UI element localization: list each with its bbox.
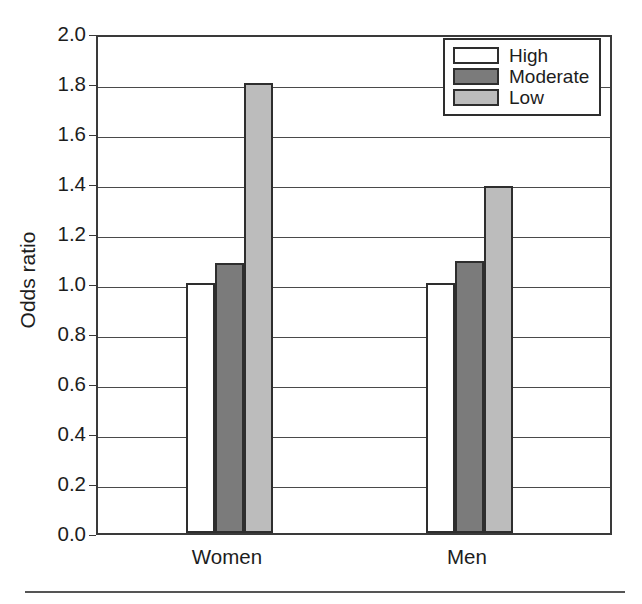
y-tick-mark — [89, 185, 96, 186]
y-tick-mark — [89, 385, 96, 386]
bar-men-moderate — [455, 261, 484, 534]
legend-swatch-moderate — [453, 68, 499, 85]
gridline — [98, 337, 610, 338]
y-tick-label: 1.4 — [58, 174, 87, 195]
legend-swatch-high — [453, 47, 499, 64]
y-tick-label: 1.6 — [58, 124, 87, 145]
y-tick-mark — [89, 135, 96, 136]
y-tick-mark — [89, 485, 96, 486]
gridline — [98, 387, 610, 388]
gridline — [98, 437, 610, 438]
legend-label-high: High — [509, 46, 548, 65]
gridline — [98, 187, 610, 188]
y-tick-mark — [89, 235, 96, 236]
y-tick-mark — [89, 285, 96, 286]
y-tick-mark — [89, 35, 96, 36]
bar-men-low — [484, 186, 513, 534]
bar-women-high — [186, 283, 215, 533]
y-tick-label: 1.2 — [58, 224, 87, 245]
legend-item-moderate: Moderate — [453, 67, 591, 86]
bar-women-low — [244, 83, 273, 533]
legend: High Moderate Low — [443, 38, 601, 116]
y-tick-label: 0.4 — [58, 424, 87, 445]
legend-label-low: Low — [509, 88, 544, 107]
legend-item-low: Low — [453, 88, 591, 107]
figure: Odds ratio 2.01.81.61.41.21.00.80.60.40.… — [0, 0, 642, 604]
bar-women-moderate — [215, 263, 244, 533]
y-tick-label: 0.6 — [58, 374, 87, 395]
bar-men-high — [426, 283, 455, 533]
legend-label-moderate: Moderate — [509, 67, 589, 86]
bottom-divider — [25, 591, 625, 593]
y-tick-label: 0.0 — [58, 524, 87, 545]
y-tick-label: 0.8 — [58, 324, 87, 345]
y-tick-mark — [89, 335, 96, 336]
legend-item-high: High — [453, 46, 591, 65]
y-tick-label: 2.0 — [58, 24, 87, 45]
gridline — [98, 287, 610, 288]
y-tick-label: 1.8 — [58, 74, 87, 95]
x-tick-label-men: Men — [387, 545, 547, 569]
plot-area: High Moderate Low — [96, 35, 612, 535]
y-tick-mark — [89, 535, 96, 536]
y-tick-mark — [89, 435, 96, 436]
x-tick-label-women: Women — [147, 545, 307, 569]
gridline — [98, 137, 610, 138]
gridline — [98, 487, 610, 488]
y-tick-label: 1.0 — [58, 274, 87, 295]
legend-swatch-low — [453, 89, 499, 106]
y-tick-mark — [89, 85, 96, 86]
gridline — [98, 237, 610, 238]
y-tick-label: 0.2 — [58, 474, 87, 495]
